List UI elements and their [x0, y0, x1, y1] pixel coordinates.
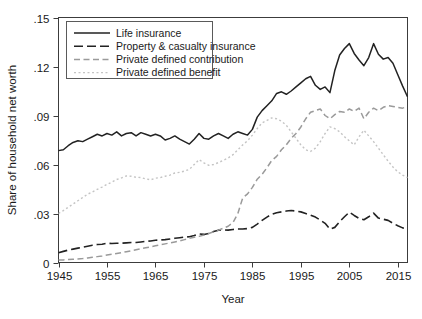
x-tick-label-1995: 1995 [289, 270, 315, 282]
x-tick-label-1955: 1955 [95, 270, 121, 282]
line-chart: 19451955196519751985199520052015 0.03.06… [0, 0, 422, 319]
x-tick-label-1965: 1965 [143, 270, 169, 282]
x-axis-ticks [60, 263, 399, 268]
y-tick-label-.12: .12 [34, 62, 50, 74]
x-axis-tick-labels: 19451955196519751985199520052015 [47, 270, 412, 282]
y-axis-title: Share of household net worth [6, 65, 18, 215]
y-tick-label-0: 0 [43, 258, 49, 270]
series-line-private-defined-contribution [59, 106, 408, 260]
legend-label-private-defined-contribution: Private defined contribution [116, 53, 243, 65]
legend-label-life-insurance: Life insurance [116, 27, 182, 39]
series-line-private-defined-benefit [59, 118, 408, 214]
y-tick-label-.03: .03 [34, 209, 50, 221]
chart-legend: Life insuranceProperty & casualty insura… [67, 22, 256, 79]
x-tick-label-1945: 1945 [47, 270, 73, 282]
chart-figure: 19451955196519751985199520052015 0.03.06… [0, 0, 422, 319]
legend-label-private-defined-benefit: Private defined benefit [116, 66, 221, 78]
legend-label-property-casualty-insurance: Property & casualty insurance [116, 40, 256, 52]
y-tick-label-.15: .15 [34, 13, 50, 25]
series-line-property-casualty-insurance [59, 211, 408, 253]
y-tick-label-.09: .09 [34, 111, 50, 123]
x-tick-label-1985: 1985 [240, 270, 266, 282]
x-tick-label-2005: 2005 [337, 270, 363, 282]
y-axis-ticks [54, 19, 59, 264]
x-tick-label-2015: 2015 [386, 270, 412, 282]
x-tick-label-1975: 1975 [192, 270, 218, 282]
x-axis-title: Year [221, 293, 244, 305]
y-axis-tick-labels: 0.03.06.09.12.15 [34, 13, 50, 270]
y-tick-label-.06: .06 [34, 160, 50, 172]
